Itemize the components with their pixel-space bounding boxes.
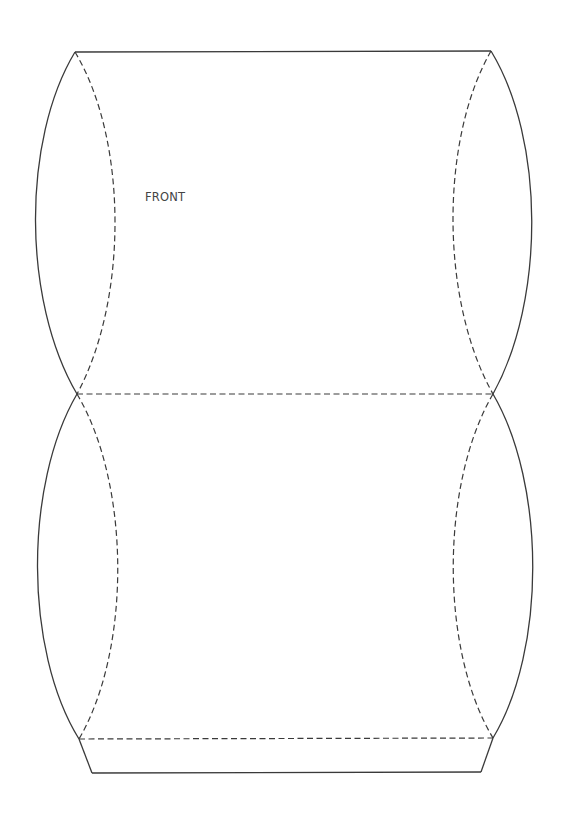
footer-instructions-clipped <box>6 809 556 814</box>
bottom-right-flap-cut-curve <box>493 394 533 738</box>
top-right-flap-fold-curve <box>453 51 493 394</box>
top-right-flap-cut-curve <box>491 51 532 394</box>
bottom-left-flap-fold-curve <box>77 394 118 739</box>
top-left-flap-fold-curve <box>75 52 115 394</box>
bottom-left-flap-cut-curve <box>37 394 79 739</box>
glue-tab-bottom-edge <box>92 772 481 773</box>
glue-tab-right-edge <box>481 738 493 772</box>
top-left-flap-cut-curve <box>35 52 77 394</box>
pillow-box-template <box>0 0 562 814</box>
glue-tab-left-edge <box>79 739 92 773</box>
front-panel-label: FRONT <box>145 190 185 204</box>
top-edge-cut-line <box>75 51 491 52</box>
bottom-right-flap-fold-curve <box>453 394 493 738</box>
glue-tab-fold-line <box>79 738 493 739</box>
